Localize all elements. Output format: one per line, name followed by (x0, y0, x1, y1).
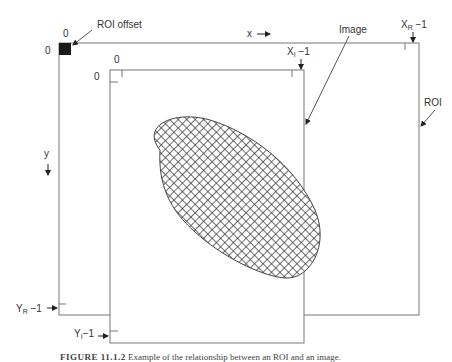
roi-offset-label: ROI offset (97, 19, 142, 30)
caption-text: Example of the relationship between an R… (128, 352, 341, 362)
image-origin-x: 0 (114, 54, 120, 65)
xi-end-label: XI −1 (287, 46, 310, 60)
roi-offset-square (59, 43, 71, 55)
figure-caption: FIGURE 11.1.2 Example of the relationshi… (60, 352, 341, 362)
roi-label: ROI (424, 97, 442, 108)
roi-origin-y: 0 (45, 45, 51, 56)
image-origin-y: 0 (94, 71, 100, 82)
figure-number: FIGURE 11.1.2 (60, 352, 126, 362)
xr-end-label: XR −1 (401, 19, 427, 33)
image-pointer-arrow (306, 36, 349, 124)
diagram-canvas (0, 0, 452, 362)
yi-end-label: YI−1 (74, 328, 94, 342)
y-axis-label: y (44, 148, 49, 159)
roi-pointer-arrow (421, 110, 435, 126)
roi-origin-x: 0 (63, 28, 69, 39)
image-label: Image (339, 24, 367, 35)
x-axis-label: x (247, 28, 252, 39)
yr-end-label: YR −1 (16, 303, 42, 317)
